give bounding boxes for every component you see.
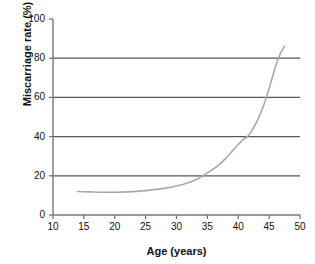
y-axis-title-text: Miscarriage rate (%) xyxy=(21,2,33,107)
x-tick-label-45: 45 xyxy=(254,222,284,232)
x-tick-label-20: 20 xyxy=(100,222,130,232)
chart-container: 020406080100 101520253035404550 Miscarri… xyxy=(0,0,315,264)
y-tick-label-20: 20 xyxy=(11,171,45,181)
y-axis-title: Miscarriage rate (%) xyxy=(19,0,35,139)
x-tick-label-15: 15 xyxy=(69,222,99,232)
gridlines-group xyxy=(53,58,300,176)
x-axis-title-text: Age (years) xyxy=(147,245,207,257)
data-series-group xyxy=(78,46,285,192)
x-tick-label-40: 40 xyxy=(223,222,253,232)
x-tick-label-25: 25 xyxy=(131,222,161,232)
y-tick-label-0: 0 xyxy=(11,210,45,220)
x-tick-label-30: 30 xyxy=(162,222,192,232)
x-tick-label-50: 50 xyxy=(285,222,315,232)
series-line-0 xyxy=(78,46,285,192)
x-tick-label-10: 10 xyxy=(38,222,68,232)
x-axis-title: Age (years) xyxy=(53,241,300,259)
x-tick-label-35: 35 xyxy=(192,222,222,232)
